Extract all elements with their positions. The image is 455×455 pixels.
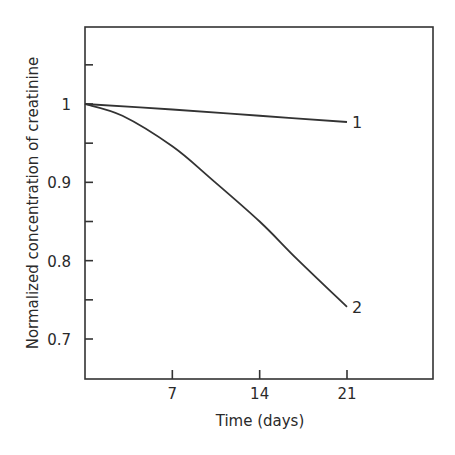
series-1-line <box>85 104 347 122</box>
x-tick-label: 21 <box>337 385 356 403</box>
x-tick-label: 7 <box>168 385 178 403</box>
series-label: 2 <box>352 298 362 317</box>
x-axis-ticks: 71421 <box>168 370 357 403</box>
data-lines <box>85 104 347 307</box>
series-2-line <box>85 104 347 307</box>
y-axis-ticks: 0.70.80.91 <box>47 65 93 349</box>
y-tick-label: 0.7 <box>47 331 71 349</box>
line-labels: 12 <box>352 113 362 317</box>
x-axis-label: Time (days) <box>215 412 305 430</box>
chart: 0.70.80.91 71421 12 Time (days) Normaliz… <box>0 0 455 455</box>
y-tick-label: 0.9 <box>47 174 71 192</box>
x-tick-label: 14 <box>250 385 269 403</box>
y-axis-label: Normalized concentration of creatinine <box>24 57 42 350</box>
y-tick-label: 1 <box>61 96 71 114</box>
plot-frame <box>85 27 433 379</box>
y-tick-label: 0.8 <box>47 253 71 271</box>
series-label: 1 <box>352 113 362 132</box>
